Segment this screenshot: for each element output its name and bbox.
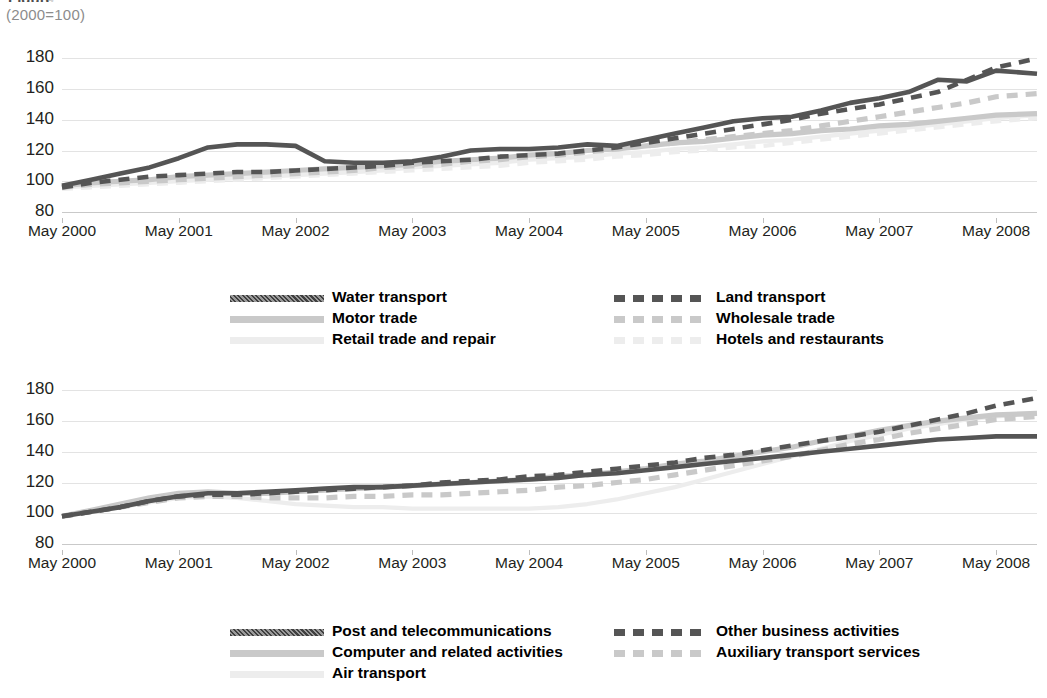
- series-line: [62, 398, 1037, 516]
- plot-area-top: 18016014012010080: [62, 46, 1037, 212]
- series-layer: [62, 46, 1037, 212]
- legend-label: Motor trade: [332, 309, 417, 327]
- y-axis-tick-label: 160: [2, 410, 54, 430]
- legend-label: Land transport: [716, 288, 825, 306]
- legend-label: Computer and related activities: [332, 643, 563, 661]
- legend-label: Air transport: [332, 664, 426, 682]
- x-axis-tick-label: May 2000: [16, 222, 108, 240]
- y-axis-tick-label: 120: [2, 140, 54, 160]
- series-layer: [62, 378, 1037, 544]
- figure-container: Figure (2000=100) 18016014012010080 May …: [0, 0, 1047, 698]
- legend-swatch-icon: [230, 316, 324, 323]
- y-axis-tick-label: 160: [2, 78, 54, 98]
- x-axis-tick-label: May 2005: [600, 554, 692, 572]
- legend-swatch-icon: [230, 295, 324, 302]
- x-axis-tick-label: May 2001: [133, 554, 225, 572]
- y-axis-tick-label: 180: [2, 47, 54, 67]
- x-axis-tick-label: May 2002: [250, 222, 342, 240]
- y-axis-tick-label: 100: [2, 170, 54, 190]
- legend-top: Water transportMotor tradeRetail trade a…: [0, 288, 1047, 352]
- x-axis-bottom: May 2000May 2001May 2002May 2003May 2004…: [0, 550, 1047, 576]
- chart-bottom: 18016014012010080 May 2000May 2001May 20…: [0, 378, 1047, 560]
- y-axis-tick-label: 100: [2, 502, 54, 522]
- x-axis-tick-label: May 2001: [133, 222, 225, 240]
- x-axis-tick-label: May 2004: [483, 554, 575, 572]
- x-axis-tick-label: May 2000: [16, 554, 108, 572]
- y-axis-tick-label: 140: [2, 109, 54, 129]
- y-axis-tick-label: 140: [2, 441, 54, 461]
- x-axis-tick-label: May 2006: [717, 554, 809, 572]
- figure-title: Figure: [8, 0, 54, 2]
- x-axis-tick-label: May 2003: [366, 222, 458, 240]
- legend-swatch-icon: [614, 629, 708, 636]
- x-axis-tick-label: May 2002: [250, 554, 342, 572]
- legend-swatch-icon: [614, 337, 708, 344]
- gridline: [62, 212, 1037, 213]
- legend-swatch-icon: [230, 671, 324, 678]
- x-axis-tick-label: May 2004: [483, 222, 575, 240]
- legend-label: Hotels and restaurants: [716, 330, 884, 348]
- x-axis-top: May 2000May 2001May 2002May 2003May 2004…: [0, 218, 1047, 244]
- legend-label: Wholesale trade: [716, 309, 835, 327]
- legend-swatch-icon: [614, 316, 708, 323]
- legend-swatch-icon: [230, 337, 324, 344]
- x-axis-tick-label: May 2008: [950, 554, 1042, 572]
- x-axis-tick-label: May 2003: [366, 554, 458, 572]
- chart-top: 18016014012010080 May 2000May 2001May 20…: [0, 46, 1047, 228]
- x-axis-tick-label: May 2008: [950, 222, 1042, 240]
- legend-swatch-icon: [614, 295, 708, 302]
- legend-label: Other business activities: [716, 622, 900, 640]
- legend-swatch-icon: [614, 650, 708, 657]
- legend-label: Water transport: [332, 288, 447, 306]
- plot-area-bottom: 18016014012010080: [62, 378, 1037, 544]
- legend-swatch-icon: [230, 650, 324, 657]
- x-axis-tick-label: May 2007: [833, 554, 925, 572]
- gridline: [62, 544, 1037, 545]
- legend-swatch-icon: [230, 629, 324, 636]
- legend-label: Retail trade and repair: [332, 330, 496, 348]
- y-axis-tick-label: 180: [2, 379, 54, 399]
- legend-bottom: Post and telecommunicationsComputer and …: [0, 622, 1047, 686]
- x-axis-tick-label: May 2006: [717, 222, 809, 240]
- legend-label: Post and telecommunications: [332, 622, 552, 640]
- legend-label: Auxiliary transport services: [716, 643, 920, 661]
- series-line: [62, 413, 1037, 516]
- series-line: [62, 436, 1037, 516]
- figure-subtitle: (2000=100): [6, 6, 85, 23]
- x-axis-tick-label: May 2007: [833, 222, 925, 240]
- y-axis-tick-label: 120: [2, 472, 54, 492]
- x-axis-tick-label: May 2005: [600, 222, 692, 240]
